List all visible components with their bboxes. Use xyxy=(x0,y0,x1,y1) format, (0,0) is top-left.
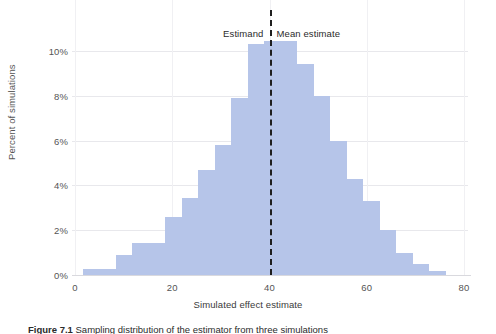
histogram-bar xyxy=(314,96,331,275)
histogram-bar xyxy=(396,253,413,275)
x-axis-tick-label: 60 xyxy=(361,282,372,293)
figure-caption-label: Figure 7.1 xyxy=(28,324,73,334)
reference-line-estimand xyxy=(270,10,272,275)
y-axis-tick-label: 2% xyxy=(54,225,68,236)
histogram-bar xyxy=(215,145,232,275)
histogram-bar xyxy=(165,217,182,275)
histogram-bar xyxy=(231,98,248,275)
histogram-bar xyxy=(116,255,133,275)
figure-caption-text: Sampling distribution of the estimator f… xyxy=(76,324,328,334)
annotation-estimand: Estimand xyxy=(223,28,263,39)
y-axis-tick-label: 8% xyxy=(54,90,68,101)
x-axis-tick-label: 40 xyxy=(264,282,275,293)
histogram-bar xyxy=(363,201,380,275)
vertical-gridline xyxy=(464,0,465,275)
y-axis-tick-label: 6% xyxy=(54,135,68,146)
annotation-mean-estimate: Mean estimate xyxy=(277,28,341,39)
histogram-bar xyxy=(182,198,199,275)
x-axis-tick-label: 20 xyxy=(167,282,178,293)
histogram-bar xyxy=(412,264,429,275)
histogram-bar xyxy=(379,230,396,275)
histogram-bar xyxy=(297,64,314,275)
x-axis-label: Simulated effect estimate xyxy=(0,299,496,310)
figure-container: Percent of simulations 0%2%4%6%8%10% Est… xyxy=(0,0,496,334)
histogram-bar xyxy=(281,41,298,275)
histogram-bar xyxy=(198,170,215,275)
x-axis-tick-label: 80 xyxy=(459,282,470,293)
histogram-bar xyxy=(132,243,149,275)
histogram-bar xyxy=(149,243,166,275)
y-axis-tick-label: 4% xyxy=(54,180,68,191)
vertical-gridline xyxy=(75,0,76,275)
histogram-bar xyxy=(330,141,347,275)
x-axis-line xyxy=(72,275,471,276)
figure-caption: Figure 7.1 Sampling distribution of the … xyxy=(28,324,488,334)
histogram-bar xyxy=(347,179,364,275)
x-axis-tick-label: 0 xyxy=(72,282,77,293)
y-axis-tick-label: 10% xyxy=(49,45,68,56)
histogram-bar xyxy=(248,44,265,275)
histogram-bar xyxy=(264,41,281,275)
y-axis-tick-label: 0% xyxy=(54,270,68,281)
plot-area: 0%2%4%6%8%10% Estimand Mean estimate xyxy=(75,24,464,275)
y-axis-label: Percent of simulations xyxy=(6,64,17,160)
